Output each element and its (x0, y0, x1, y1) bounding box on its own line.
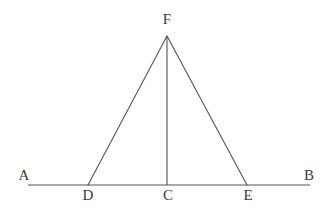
triangle-side-fd (88, 36, 167, 185)
geometry-diagram: A B F D C E (0, 0, 329, 218)
vertex-label-a: A (19, 168, 30, 183)
figure-canvas (0, 0, 329, 218)
vertex-label-d: D (83, 188, 94, 203)
vertex-label-e: E (243, 188, 252, 203)
vertex-label-b: B (304, 168, 314, 183)
vertex-label-c: C (163, 188, 173, 203)
vertex-label-f: F (163, 12, 171, 27)
triangle-side-fe (167, 36, 247, 185)
